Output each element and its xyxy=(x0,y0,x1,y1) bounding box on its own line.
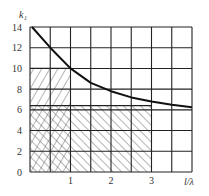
x-tick-label: 2 xyxy=(109,175,114,186)
x-tick-label: 3 xyxy=(149,175,154,186)
y-tick-label: 12 xyxy=(12,42,22,53)
y-axis-label: k₁ xyxy=(19,9,27,20)
y-tick-label: 4 xyxy=(17,125,22,136)
y-tick-label: 2 xyxy=(17,146,22,157)
y-tick-label: 0 xyxy=(17,167,22,178)
x-tick-label: 1 xyxy=(68,175,73,186)
x-axis-label: l/λ xyxy=(184,176,195,187)
x-ticks: 123 xyxy=(68,175,154,186)
y-tick-label: 14 xyxy=(12,22,22,33)
y-ticks: 02468101214 xyxy=(12,22,22,178)
y-tick-label: 10 xyxy=(12,63,22,74)
y-tick-label: 6 xyxy=(17,104,22,115)
chart: 02468101214 123 k₁ l/λ xyxy=(0,0,209,196)
y-tick-label: 8 xyxy=(17,84,22,95)
